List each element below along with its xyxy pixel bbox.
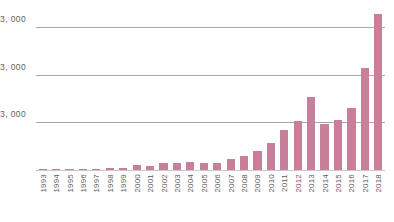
bar[interactable] [280,130,288,170]
x-tick-slot: 2011 [278,172,291,220]
bar-slot [157,2,170,170]
bar[interactable] [307,97,315,170]
x-tick-slot: 2000 [130,172,143,220]
bar-slot [210,2,223,170]
x-tick-slot: 2003 [170,172,183,220]
bar-slot [63,2,76,170]
y-axis-tick-label: 3, 000 [0,109,34,119]
bar[interactable] [240,156,248,170]
bar-series [36,2,385,170]
bar[interactable] [320,124,328,170]
bar-slot [170,2,183,170]
bar[interactable] [334,120,342,170]
bar-slot [345,2,358,170]
bar-chart-figure: 3, 0003, 0003, 000 199319941995199619971… [0,0,394,222]
x-axis-tick-label: 2005 [199,174,208,193]
bar[interactable] [361,68,369,170]
x-tick-slot: 2002 [157,172,170,220]
bar-slot [103,2,116,170]
x-axis-tick-label: 2013 [307,174,316,193]
bar-slot [278,2,291,170]
x-tick-slot: 1994 [49,172,62,220]
bar[interactable] [253,151,261,170]
x-axis-tick-label: 1993 [38,174,47,193]
bar-slot [224,2,237,170]
bar[interactable] [294,121,302,170]
bar-slot [358,2,371,170]
bar-slot [76,2,89,170]
x-axis-tick-label: 2014 [320,174,329,193]
y-axis-tick-label: 3, 000 [0,14,34,24]
x-tick-slot: 2007 [224,172,237,220]
x-tick-slot: 1996 [76,172,89,220]
bar-slot [143,2,156,170]
x-tick-slot: 2017 [358,172,371,220]
plot-area [36,2,385,170]
bar[interactable] [200,163,208,170]
x-tick-slot: 1997 [90,172,103,220]
x-axis-tick-label: 2016 [347,174,356,193]
x-tick-slot: 1993 [36,172,49,220]
x-tick-slot: 2008 [237,172,250,220]
x-axis-tick-label: 2017 [360,174,369,193]
x-tick-slot: 1998 [103,172,116,220]
x-tick-slot: 2018 [372,172,385,220]
bar[interactable] [186,162,194,170]
x-axis-tick-label: 2018 [374,174,383,193]
bar[interactable] [159,163,167,170]
x-axis-tick-label: 1994 [52,174,61,193]
x-axis-tick-label: 1998 [105,174,114,193]
x-axis-tick-label: 1997 [92,174,101,193]
x-axis-tick-label: 2011 [280,174,289,192]
x-axis-tick-label: 2006 [213,174,222,193]
bar-slot [130,2,143,170]
x-tick-slot: 2001 [143,172,156,220]
y-axis-tick-label: 3, 000 [0,62,34,72]
x-tick-slot: 2006 [210,172,223,220]
bar[interactable] [227,159,235,170]
x-axis-tick-label: 2007 [226,174,235,193]
x-axis-tick-label: 2008 [240,174,249,193]
bar-slot [36,2,49,170]
x-tick-slot: 2016 [345,172,358,220]
x-axis-tick-label: 2004 [186,174,195,193]
x-axis-tick-label: 2009 [253,174,262,193]
bar[interactable] [267,143,275,170]
x-tick-slot: 2010 [264,172,277,220]
x-axis-tick-label: 1996 [78,174,87,193]
x-axis-tick-labels: 1993199419951996199719981999200020012002… [36,172,385,220]
bar-slot [264,2,277,170]
x-axis-tick-label: 2002 [159,174,168,193]
x-axis-tick-label: 1999 [119,174,128,193]
x-tick-slot: 1999 [117,172,130,220]
bar-slot [251,2,264,170]
bar-slot [331,2,344,170]
bar-slot [372,2,385,170]
bar-slot [117,2,130,170]
bar-slot [184,2,197,170]
x-tick-slot: 2004 [184,172,197,220]
x-tick-slot: 2012 [291,172,304,220]
x-tick-slot: 2005 [197,172,210,220]
bar-slot [304,2,317,170]
bar[interactable] [213,163,221,170]
bar-slot [237,2,250,170]
x-axis-tick-label: 2001 [146,174,155,193]
x-axis-line [36,170,385,171]
x-axis-tick-label: 2012 [293,174,302,193]
bar-slot [90,2,103,170]
x-tick-slot: 2009 [251,172,264,220]
x-axis-tick-label: 1995 [65,174,74,193]
bar-slot [318,2,331,170]
x-axis-tick-label: 2015 [333,174,342,193]
bar-slot [291,2,304,170]
bar-slot [49,2,62,170]
bar[interactable] [173,163,181,170]
x-tick-slot: 1995 [63,172,76,220]
x-axis-tick-label: 2003 [172,174,181,193]
x-tick-slot: 2014 [318,172,331,220]
bar-slot [197,2,210,170]
bar[interactable] [374,14,382,170]
x-tick-slot: 2015 [331,172,344,220]
bar[interactable] [347,108,355,170]
